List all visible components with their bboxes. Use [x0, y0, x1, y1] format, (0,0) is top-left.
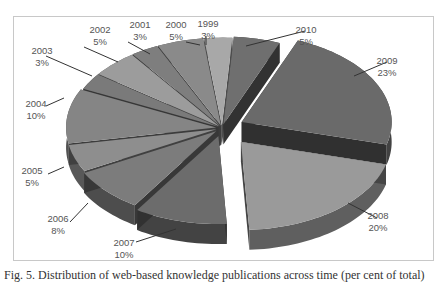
leader-line — [46, 56, 92, 76]
svg-text:2003: 2003 — [31, 45, 52, 56]
data-label-2004: 200410% — [25, 98, 64, 121]
svg-text:23%: 23% — [377, 67, 397, 78]
svg-text:3%: 3% — [133, 31, 147, 42]
data-label-2005: 20055% — [21, 165, 64, 188]
svg-text:5%: 5% — [299, 36, 313, 47]
svg-text:2004: 2004 — [25, 98, 46, 109]
data-label-2003: 20033% — [31, 45, 92, 76]
svg-text:2008: 2008 — [367, 210, 388, 221]
leader-line — [46, 98, 64, 106]
svg-text:5%: 5% — [25, 177, 39, 188]
data-label-2006: 20068% — [47, 203, 88, 236]
svg-text:10%: 10% — [26, 110, 46, 121]
svg-text:3%: 3% — [201, 30, 215, 41]
data-label-2010: 20105% — [246, 24, 317, 47]
svg-text:5%: 5% — [169, 31, 183, 42]
svg-text:20%: 20% — [368, 222, 388, 233]
data-label-2002: 20025% — [84, 24, 118, 62]
svg-text:2002: 2002 — [89, 24, 110, 35]
leader-line — [84, 47, 118, 62]
svg-text:1999: 1999 — [197, 18, 218, 29]
leader-line — [70, 203, 88, 222]
svg-text:8%: 8% — [51, 225, 65, 236]
figure-caption: Fig. 5. Distribution of web-based knowle… — [4, 268, 425, 283]
svg-text:2007: 2007 — [113, 237, 134, 248]
svg-text:2009: 2009 — [376, 55, 397, 66]
svg-text:10%: 10% — [114, 249, 134, 260]
data-label-2001: 20013% — [128, 19, 151, 54]
leader-line — [48, 167, 64, 174]
svg-text:2005: 2005 — [21, 165, 42, 176]
svg-text:2001: 2001 — [129, 19, 150, 30]
svg-text:3%: 3% — [35, 57, 49, 68]
svg-text:2006: 2006 — [47, 213, 68, 224]
svg-text:5%: 5% — [93, 36, 107, 47]
svg-text:2000: 2000 — [165, 19, 186, 30]
svg-text:2010: 2010 — [295, 24, 316, 35]
